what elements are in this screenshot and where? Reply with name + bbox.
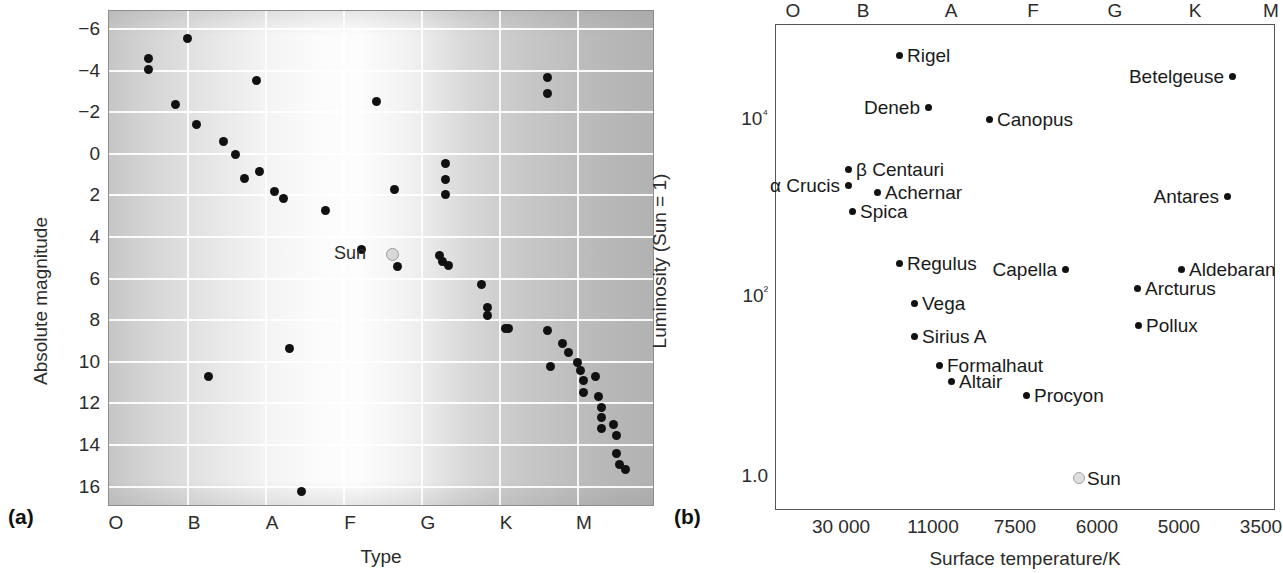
gridline-horizontal bbox=[109, 236, 653, 238]
gridline-vertical bbox=[421, 11, 423, 505]
data-point bbox=[579, 376, 588, 385]
data-point bbox=[546, 362, 555, 371]
panel-a-y-tick: 2 bbox=[89, 185, 100, 204]
gridline-horizontal bbox=[109, 361, 653, 363]
gridline-horizontal bbox=[109, 278, 653, 280]
star-marker bbox=[948, 378, 955, 385]
gridline-horizontal bbox=[109, 111, 653, 113]
star-label: Vega bbox=[922, 294, 965, 313]
panel-b-top-x-tick: B bbox=[840, 0, 886, 22]
panel-b-bottom-x-tick: 7500 bbox=[970, 516, 1060, 538]
panel-a-y-axis-title: Absolute magnitude bbox=[30, 186, 52, 416]
data-point bbox=[252, 76, 261, 85]
panel-a-x-tick-labels: OBAFGKM bbox=[108, 512, 654, 538]
star-label: Capella bbox=[993, 260, 1057, 279]
data-point bbox=[297, 487, 306, 496]
data-point bbox=[597, 424, 606, 433]
star-marker bbox=[1062, 266, 1069, 273]
star-marker bbox=[845, 166, 852, 173]
data-point bbox=[477, 280, 486, 289]
star-label: Achernar bbox=[885, 183, 962, 202]
panel-b-top-x-tick-labels: OBAFGKM bbox=[775, 0, 1275, 22]
panel-b-top-x-tick: M bbox=[1248, 0, 1283, 22]
panel-b-y-axis-title: Luminosity (Sun = 1) bbox=[649, 141, 671, 381]
panel-b-y-tick: 1.0 bbox=[742, 466, 768, 485]
star-label: Arcturus bbox=[1145, 279, 1216, 298]
panel-a-y-axis-title-wrap: Absolute magnitude bbox=[14, 100, 54, 360]
data-point bbox=[204, 372, 213, 381]
star-marker bbox=[936, 362, 943, 369]
data-point bbox=[444, 261, 453, 270]
data-point bbox=[558, 339, 567, 348]
panel-b-bottom-x-tick-labels: 30 000110007500600050003500 bbox=[775, 516, 1275, 542]
data-point bbox=[591, 372, 600, 381]
data-point bbox=[441, 159, 450, 168]
gridline-horizontal bbox=[109, 486, 653, 488]
panel-a-y-tick: 8 bbox=[89, 310, 100, 329]
star-marker bbox=[896, 52, 903, 59]
panel-a-y-tick: 16 bbox=[79, 477, 100, 496]
data-point bbox=[612, 449, 621, 458]
star-label: α Crucis bbox=[770, 176, 840, 195]
star-marker bbox=[911, 300, 918, 307]
panel-b-tag: (b) bbox=[674, 505, 701, 529]
panel-a-y-tick: 12 bbox=[79, 393, 100, 412]
data-point bbox=[321, 206, 330, 215]
gridline-vertical bbox=[265, 11, 267, 505]
panel-b-top-x-tick: O bbox=[770, 0, 816, 22]
panel-b-y-axis-title-wrap: Luminosity (Sun = 1) bbox=[642, 140, 682, 380]
panel-a-hr-magnitude-type: Sun −6−4−20246810121416 Absolute magnitu… bbox=[0, 0, 660, 573]
star-marker bbox=[1229, 73, 1236, 80]
data-point bbox=[597, 413, 606, 422]
data-point bbox=[609, 420, 618, 429]
star-label: Regulus bbox=[907, 254, 977, 273]
star-label: Aldebaran bbox=[1189, 260, 1276, 279]
hr-diagram-figure: Sun −6−4−20246810121416 Absolute magnitu… bbox=[0, 0, 1283, 573]
panel-b-y-tick: 10² bbox=[743, 284, 768, 305]
data-point bbox=[255, 167, 264, 176]
panel-a-y-tick: 4 bbox=[89, 227, 100, 246]
panel-a-x-axis-title: Type bbox=[108, 546, 654, 568]
panel-b-y-tick-labels: 10⁴10²1.0 bbox=[680, 0, 768, 510]
star-marker bbox=[911, 333, 918, 340]
panel-a-tag: (a) bbox=[8, 505, 34, 529]
star-marker bbox=[845, 182, 852, 189]
data-point bbox=[504, 324, 513, 333]
panel-b-top-x-tick: K bbox=[1172, 0, 1218, 22]
panel-b-hr-luminosity-temperature: OBAFGKM RigelBetelgeuseDenebCanopusβ Cen… bbox=[660, 0, 1283, 573]
panel-a-x-tick: O bbox=[96, 512, 136, 534]
panel-a-x-tick: A bbox=[252, 512, 292, 534]
data-point bbox=[372, 97, 381, 106]
data-point bbox=[231, 150, 240, 159]
panel-a-background-shade bbox=[109, 11, 653, 505]
star-marker bbox=[849, 208, 856, 215]
data-point bbox=[285, 344, 294, 353]
star-label: β Centauri bbox=[856, 160, 944, 179]
panel-a-y-tick: 0 bbox=[89, 144, 100, 163]
star-label: Antares bbox=[1154, 187, 1219, 206]
data-point bbox=[270, 187, 279, 196]
data-point bbox=[612, 431, 621, 440]
gridline-horizontal bbox=[109, 28, 653, 30]
star-marker bbox=[1135, 322, 1142, 329]
panel-b-x-axis-title: Surface temperature/K bbox=[775, 548, 1275, 570]
data-point bbox=[543, 89, 552, 98]
star-label: Sun bbox=[1087, 469, 1121, 488]
gridline-vertical bbox=[499, 11, 501, 505]
star-marker bbox=[1023, 392, 1030, 399]
star-label: Spica bbox=[860, 202, 908, 221]
data-point bbox=[543, 326, 552, 335]
star-label: Pollux bbox=[1146, 316, 1198, 335]
panel-a-x-tick: B bbox=[174, 512, 214, 534]
star-label: Deneb bbox=[864, 98, 920, 117]
data-point bbox=[483, 311, 492, 320]
data-point bbox=[441, 190, 450, 199]
data-point bbox=[621, 465, 630, 474]
data-point bbox=[171, 100, 180, 109]
panel-a-x-tick: M bbox=[564, 512, 604, 534]
star-marker bbox=[896, 260, 903, 267]
panel-a-x-tick: G bbox=[408, 512, 448, 534]
data-point bbox=[144, 54, 153, 63]
data-point bbox=[564, 348, 573, 357]
panel-a-y-tick: −6 bbox=[78, 19, 100, 38]
